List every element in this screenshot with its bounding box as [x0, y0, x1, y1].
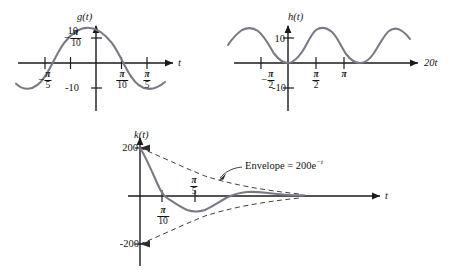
xtick-label-k-pi-5: π 5: [190, 176, 197, 197]
envelope-annotation: Envelope = 200e−t: [245, 159, 323, 171]
ytick-label-k-neg: -200: [120, 239, 139, 250]
xtick-label-h-neg-pi-2: − π 2: [261, 70, 274, 91]
annotation-arrowhead: [219, 174, 226, 181]
curve-h: [228, 28, 410, 63]
ylabel-k: k(t): [134, 130, 149, 141]
xtick-label-h-pi-2: π 2: [312, 70, 319, 91]
xtick-label-g-neg-pi-5: − π 5: [38, 70, 51, 91]
xtick-label-h-pi: π: [341, 70, 346, 80]
ytick-label-k-pos: 200: [122, 143, 138, 154]
xtick-label-g-neg-pi-10: − π 10: [64, 28, 81, 49]
ytick-label-h-pos: 10: [275, 34, 286, 45]
ytick-label-g-neg: -10: [65, 83, 79, 94]
plot-h-of-t: [232, 8, 437, 118]
xtick-label-g-pi-5: π 5: [143, 70, 150, 91]
xlabel-g: t: [178, 58, 181, 69]
figure-container: g(t) 10 -10 t − π 5 − π 10 π 10 π 5: [0, 0, 463, 272]
x-axis-h: [234, 60, 418, 67]
xlabel-k: t: [385, 191, 388, 202]
envelope-upper: [140, 148, 300, 194]
plot-g-of-t: [10, 8, 200, 118]
xtick-label-k-pi-10: π 10: [157, 206, 169, 227]
xlabel-h: 20t: [424, 58, 437, 69]
arrow-to-neg200: [140, 241, 150, 248]
ylabel-h: h(t): [288, 12, 303, 23]
xtick-label-g-pi-10: π 10: [116, 70, 128, 91]
curve-k: [140, 148, 304, 212]
plot-k-of-t: [120, 128, 410, 268]
ylabel-g: g(t): [77, 12, 92, 23]
